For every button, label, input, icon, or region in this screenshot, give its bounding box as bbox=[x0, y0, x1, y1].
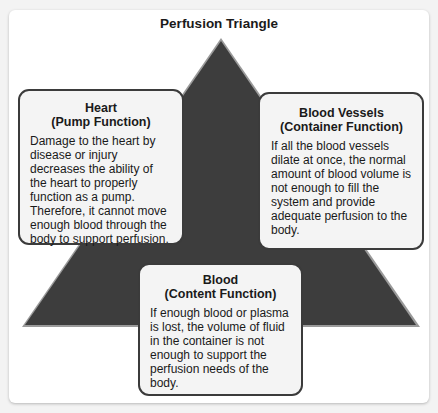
heart-description: Damage to the heart by disease or injury… bbox=[30, 134, 172, 246]
blood-vessels-title: Blood Vessels bbox=[299, 106, 384, 120]
blood-vessels-description: If all the blood vessels dilate at once,… bbox=[271, 139, 412, 237]
heart-title: Heart bbox=[85, 101, 117, 115]
heart-subtitle: (Pump Function) bbox=[51, 115, 150, 129]
blood-vessels-box-title: Blood Vessels (Container Function) bbox=[271, 106, 412, 134]
diagram-title: Perfusion Triangle bbox=[0, 16, 438, 31]
heart-box: Heart (Pump Function) Damage to the hear… bbox=[18, 89, 184, 245]
blood-title: Blood bbox=[203, 273, 238, 287]
blood-vessels-subtitle: (Container Function) bbox=[280, 120, 403, 134]
blood-subtitle: (Content Function) bbox=[165, 287, 277, 301]
blood-box-title: Blood (Content Function) bbox=[150, 273, 291, 301]
blood-box: Blood (Content Function) If enough blood… bbox=[138, 263, 303, 396]
blood-vessels-box: Blood Vessels (Container Function) If al… bbox=[258, 92, 424, 250]
heart-box-title: Heart (Pump Function) bbox=[30, 101, 172, 129]
blood-description: If enough blood or plasma is lost, the v… bbox=[150, 306, 291, 390]
